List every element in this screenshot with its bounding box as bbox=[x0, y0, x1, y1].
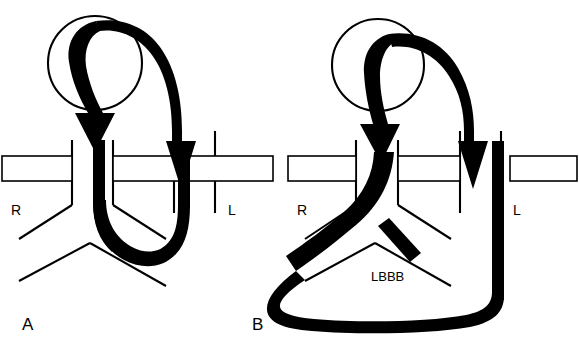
reentry-path-ascending bbox=[178, 141, 190, 208]
figure-root: R L A bbox=[0, 0, 579, 348]
septum-band bbox=[2, 156, 72, 181]
panel-label-a: A bbox=[22, 315, 34, 334]
lbbb-label: LBBB bbox=[371, 269, 404, 284]
chamber-label-left: L bbox=[228, 202, 236, 218]
septum-band bbox=[398, 156, 460, 181]
panel-b-septum bbox=[288, 156, 577, 181]
septum-band bbox=[113, 156, 273, 181]
chamber-label-left: L bbox=[513, 202, 521, 218]
septum-band bbox=[510, 156, 577, 181]
chamber-label-right: R bbox=[297, 202, 307, 218]
reentry-path-ascending bbox=[492, 141, 504, 300]
panel-a-septum bbox=[2, 156, 273, 181]
septum-band bbox=[288, 156, 356, 181]
reentry-circuit-figure: R L A bbox=[0, 0, 579, 348]
chamber-label-right: R bbox=[11, 202, 21, 218]
panel-label-b: B bbox=[252, 315, 263, 334]
